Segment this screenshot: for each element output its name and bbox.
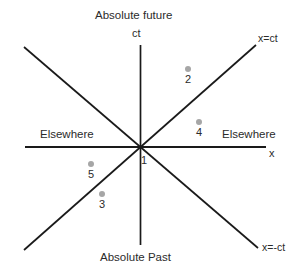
spacetime-diagram: Absolute future ct x=ct Elsewhere Elsewh…	[0, 0, 302, 275]
label-ct-axis: ct	[132, 28, 141, 39]
event-label-4: 4	[192, 127, 206, 138]
label-elsewhere-right: Elsewhere	[222, 129, 276, 141]
label-x-equals-ct: x=ct	[258, 33, 278, 44]
event-dot-2	[185, 66, 191, 72]
label-x-equals-minus-ct: x=-ct	[262, 242, 285, 253]
label-absolute-past: Absolute Past	[100, 252, 171, 264]
event-label-1: 1	[137, 155, 151, 166]
event-label-3: 3	[95, 199, 109, 210]
event-dot-3	[99, 191, 105, 197]
event-dot-5	[88, 161, 94, 167]
event-label-2: 2	[181, 74, 195, 85]
label-elsewhere-left: Elsewhere	[40, 129, 94, 141]
event-label-5: 5	[84, 169, 98, 180]
label-x-axis: x	[269, 148, 275, 159]
event-dot-4	[196, 119, 202, 125]
label-absolute-future: Absolute future	[95, 10, 172, 22]
